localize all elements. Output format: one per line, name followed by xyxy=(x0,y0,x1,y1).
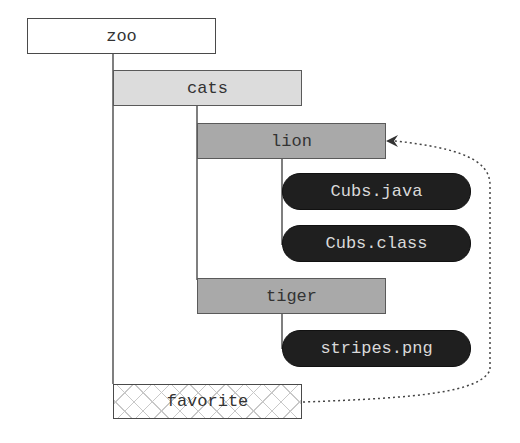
folder-zoo[interactable]: zoo xyxy=(27,18,216,54)
connector-lines xyxy=(0,0,520,443)
link-label: favorite xyxy=(167,392,249,411)
file-label: Cubs.class xyxy=(325,234,427,253)
folder-lion[interactable]: lion xyxy=(197,123,386,159)
folder-label: tiger xyxy=(266,287,317,306)
folder-label: lion xyxy=(271,132,312,151)
file-cubs-java[interactable]: Cubs.java xyxy=(282,173,471,210)
folder-tiger[interactable]: tiger xyxy=(197,278,386,314)
folder-label: cats xyxy=(187,79,228,98)
directory-tree-diagram: zoo cats lion Cubs.java Cubs.class tiger… xyxy=(0,0,520,443)
file-cubs-class[interactable]: Cubs.class xyxy=(282,225,471,262)
file-label: Cubs.java xyxy=(331,182,423,201)
symlink-favorite[interactable]: favorite xyxy=(113,384,302,419)
folder-cats[interactable]: cats xyxy=(113,70,302,106)
file-label: stripes.png xyxy=(320,339,432,358)
file-stripes-png[interactable]: stripes.png xyxy=(282,330,471,367)
folder-label: zoo xyxy=(106,27,137,46)
